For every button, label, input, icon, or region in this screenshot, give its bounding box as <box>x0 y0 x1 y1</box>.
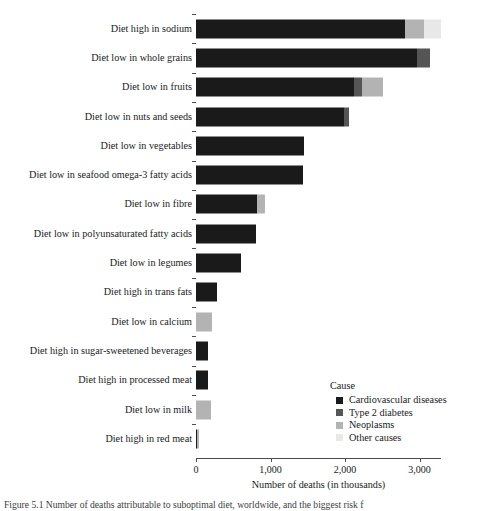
chart-bar-row: Diet low in seafood omega-3 fatty acids <box>0 161 478 190</box>
category-label: Diet high in sodium <box>111 23 192 34</box>
y-axis-tick <box>192 102 196 103</box>
bar-segment[interactable] <box>196 166 303 185</box>
legend-swatch-icon <box>336 409 343 416</box>
stacked-bar[interactable] <box>196 341 208 360</box>
figure-container: Diet high in sodiumDiet low in whole gra… <box>0 0 478 511</box>
bar-segment[interactable] <box>405 19 425 38</box>
bar-segment[interactable] <box>196 48 417 67</box>
category-label: Diet high in sugar-sweetened beverages <box>30 345 192 356</box>
y-axis-tick <box>192 14 196 15</box>
category-label: Diet low in calcium <box>111 316 192 327</box>
bar-segment[interactable] <box>417 48 430 67</box>
stacked-bar[interactable] <box>196 429 199 448</box>
stacked-bar[interactable] <box>196 48 430 67</box>
category-label: Diet high in processed meat <box>78 375 192 386</box>
y-axis-tick <box>192 395 196 396</box>
y-axis-tick <box>192 366 196 367</box>
bar-segment[interactable] <box>344 107 348 126</box>
category-label: Diet low in nuts and seeds <box>85 111 192 122</box>
stacked-bar[interactable] <box>196 312 212 331</box>
y-axis-tick <box>192 190 196 191</box>
bar-segment[interactable] <box>196 400 211 419</box>
bar-segment[interactable] <box>257 195 265 214</box>
stacked-bar[interactable] <box>196 371 208 390</box>
y-axis-tick <box>192 424 196 425</box>
category-label: Diet high in trans fats <box>104 287 192 298</box>
legend-label: Type 2 diabetes <box>349 408 413 418</box>
bar-segment[interactable] <box>196 107 344 126</box>
stacked-bar[interactable] <box>196 224 256 243</box>
chart-bar-row: Diet low in legumes <box>0 248 478 277</box>
legend-item[interactable]: Other causes <box>330 432 447 445</box>
bar-segment[interactable] <box>196 78 354 97</box>
y-axis-tick <box>192 73 196 74</box>
y-axis-tick <box>192 161 196 162</box>
x-axis-line <box>196 458 441 459</box>
x-axis-tick-label: 1,000 <box>259 464 282 475</box>
bar-segment[interactable] <box>196 254 241 273</box>
bar-segment[interactable] <box>196 19 405 38</box>
legend-item[interactable]: Type 2 diabetes <box>330 407 447 420</box>
chart-bar-row: Diet low in vegetables <box>0 131 478 160</box>
stacked-bar[interactable] <box>196 136 304 155</box>
x-axis-tick <box>196 458 197 462</box>
bar-segment[interactable] <box>196 283 217 302</box>
bar-segment[interactable] <box>362 78 383 97</box>
chart-bar-row: Diet low in fruits <box>0 73 478 102</box>
category-label: Diet low in legumes <box>110 257 192 268</box>
category-label: Diet low in milk <box>125 404 192 415</box>
x-axis-title: Number of deaths (in thousands) <box>196 479 441 490</box>
bar-segment[interactable] <box>354 78 362 97</box>
x-axis-tick-label: 2,000 <box>334 464 357 475</box>
bar-segment[interactable] <box>196 371 208 390</box>
category-label: Diet low in whole grains <box>91 52 192 63</box>
bar-segment[interactable] <box>196 136 304 155</box>
stacked-bar[interactable] <box>196 78 383 97</box>
category-label: Diet high in red meat <box>105 433 192 444</box>
x-axis-tick <box>271 458 272 462</box>
legend-swatch-icon <box>336 434 343 441</box>
y-axis-tick <box>192 307 196 308</box>
figure-caption: Figure 5.1 Number of deaths attributable… <box>4 499 474 511</box>
x-axis-tick <box>420 458 421 462</box>
bar-segment[interactable] <box>196 224 256 243</box>
legend-label: Neoplasms <box>349 420 394 430</box>
y-axis-tick <box>192 248 196 249</box>
bar-segment[interactable] <box>197 429 198 448</box>
stacked-bar[interactable] <box>196 254 241 273</box>
category-label: Diet low in fruits <box>122 82 192 93</box>
legend-item[interactable]: Neoplasms <box>330 419 447 432</box>
legend-title: Cause <box>330 381 447 391</box>
chart-bar-row: Diet low in calcium <box>0 307 478 336</box>
legend-item[interactable]: Cardiovascular diseases <box>330 394 447 407</box>
stacked-bar[interactable] <box>196 166 303 185</box>
y-axis-tick <box>192 278 196 279</box>
stacked-bar[interactable] <box>196 19 441 38</box>
legend-swatch-icon <box>336 397 343 404</box>
bar-segment[interactable] <box>196 195 257 214</box>
chart-bar-row: Diet low in fibre <box>0 190 478 219</box>
y-axis-tick <box>192 336 196 337</box>
y-axis-tick <box>192 131 196 132</box>
x-axis-tick-label: 0 <box>194 464 199 475</box>
stacked-bar[interactable] <box>196 107 349 126</box>
bar-segment[interactable] <box>196 312 212 331</box>
legend-label: Other causes <box>349 433 401 443</box>
y-axis-tick <box>192 219 196 220</box>
stacked-bar[interactable] <box>196 195 265 214</box>
x-axis-tick <box>345 458 346 462</box>
category-label: Diet low in fibre <box>124 199 192 210</box>
legend-label: Cardiovascular diseases <box>349 395 447 405</box>
category-label: Diet low in vegetables <box>101 140 192 151</box>
category-label: Diet low in polyunsaturated fatty acids <box>34 228 192 239</box>
x-axis-tick-label: 3,000 <box>408 464 431 475</box>
chart-bar-row: Diet high in sodium <box>0 14 478 43</box>
chart-bar-row: Diet high in sugar-sweetened beverages <box>0 336 478 365</box>
stacked-bar[interactable] <box>196 400 211 419</box>
y-axis-tick <box>192 43 196 44</box>
stacked-bar[interactable] <box>196 283 217 302</box>
legend-swatch-icon <box>336 422 343 429</box>
bar-segment[interactable] <box>196 341 208 360</box>
bar-segment[interactable] <box>424 19 441 38</box>
chart-legend: Cause Cardiovascular diseasesType 2 diab… <box>330 381 447 444</box>
